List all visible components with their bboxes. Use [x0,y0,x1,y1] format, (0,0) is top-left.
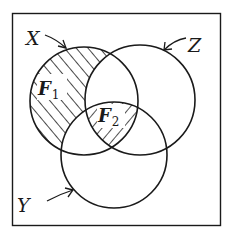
set-x-label: X [24,27,41,49]
venn-diagram: X Z Y F1 F2 [0,0,233,234]
set-z-label: Z [187,34,202,56]
